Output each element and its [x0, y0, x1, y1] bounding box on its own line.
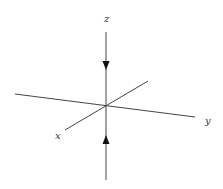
coordinate-axes-diagram: z x y	[0, 0, 223, 189]
arrow-up-icon	[103, 135, 110, 144]
x-axis-label: x	[55, 130, 61, 141]
z-axis-label: z	[103, 13, 110, 24]
y-axis-label: y	[204, 115, 211, 126]
y-axis-line	[15, 94, 195, 117]
arrow-down-icon	[103, 61, 110, 70]
